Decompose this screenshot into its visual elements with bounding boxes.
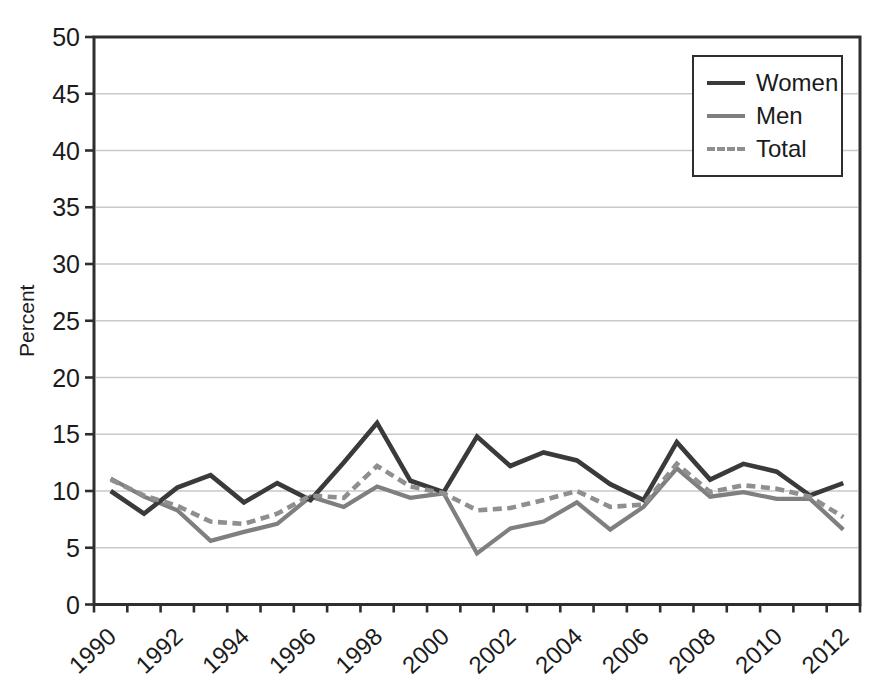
legend-label-women: Women [756,71,838,95]
x-tick-label: 2000 [397,622,454,678]
legend-item-men: Men [707,103,835,129]
y-tick-label: 30 [52,250,80,278]
x-tick-label: 1994 [197,622,254,678]
x-tick-label: 1996 [263,622,320,678]
y-axis-title: Percent [15,284,38,357]
y-tick-label: 45 [52,80,80,108]
x-tick-label: 2012 [796,622,853,678]
y-tick-label: 20 [52,364,80,392]
legend-item-total: Total [707,136,835,162]
x-tick-label: 2002 [463,622,520,678]
x-tick-label: 2008 [663,622,720,678]
women-line-swatch [707,81,745,85]
legend-label-men: Men [756,104,803,128]
men-line-swatch [707,114,745,118]
y-tick-label: 10 [52,477,80,505]
legend-item-women: Women [707,70,835,96]
y-tick-label: 5 [66,534,80,562]
y-tick-label: 15 [52,420,80,448]
y-tick-label: 35 [52,193,80,221]
legend: Women Men Total [692,55,843,177]
x-tick-label: 2010 [730,622,787,678]
x-tick-label: 1998 [330,622,387,678]
x-tick-label: 1992 [130,622,187,678]
y-tick-label: 50 [52,23,80,51]
chart-figure: 0510152025303540455019901992199419961998… [0,0,884,691]
x-tick-label: 2006 [596,622,653,678]
total-line-swatch [707,147,745,151]
y-tick-label: 25 [52,307,80,335]
x-tick-label: 2004 [530,622,587,678]
x-tick-label: 1990 [64,622,121,678]
y-tick-label: 0 [66,591,80,619]
y-tick-label: 40 [52,137,80,165]
series-line-women [111,423,844,514]
legend-label-total: Total [756,137,807,161]
